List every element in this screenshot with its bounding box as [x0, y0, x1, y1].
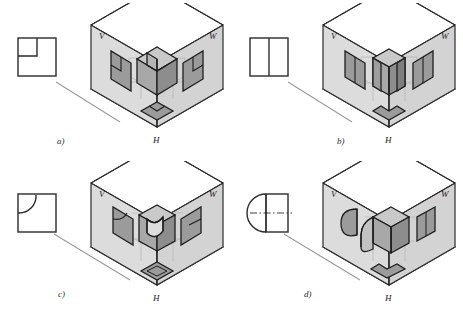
plane-label-h: H [384, 135, 392, 145]
plane-label-h: H [152, 293, 160, 303]
plane-label-h: H [152, 135, 160, 145]
plane-label-h: H [384, 293, 392, 303]
projection-box-b: V W H [317, 3, 462, 155]
panel-caption-a: a) [57, 136, 65, 146]
panel-d: V W H d) [232, 158, 463, 316]
shape-thumbnail-b [240, 30, 300, 85]
panel-c: V W H c) [0, 158, 231, 316]
panel-caption-b: b) [337, 136, 345, 146]
figure-root: V W H a) [0, 0, 463, 317]
panel-caption-d: d) [304, 289, 312, 299]
projection-box-a: V W H [85, 3, 230, 155]
projection-box-c: V W H [85, 161, 230, 313]
shape-thumbnail-a [8, 30, 68, 85]
panel-b: V W H b) [232, 0, 463, 158]
panel-caption-c: c) [58, 289, 65, 299]
projection-box-d: V W H [317, 161, 462, 313]
panel-a: V W H a) [0, 0, 231, 158]
